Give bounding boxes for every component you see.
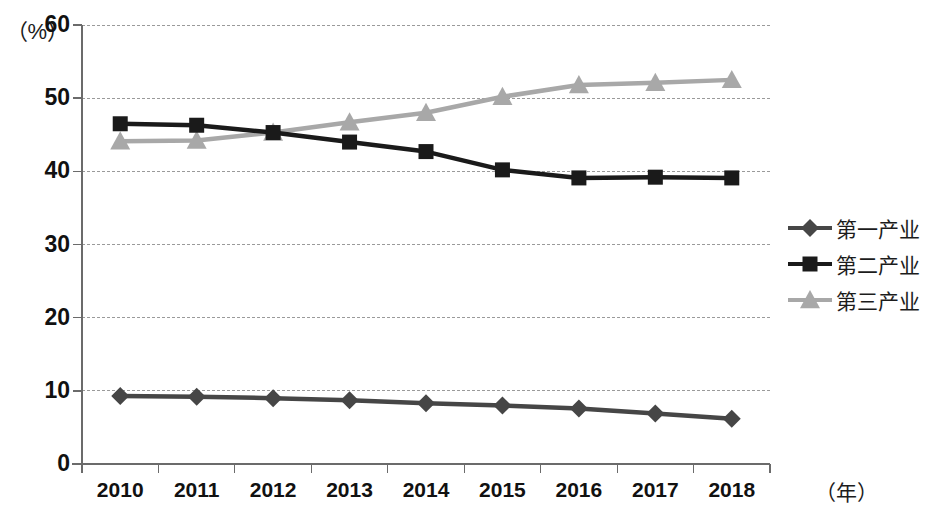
x-axis-tick-label: 2010 [97, 478, 144, 502]
y-axis-tick-label: 20 [10, 304, 70, 331]
legend-square-icon [788, 254, 832, 274]
data-point [570, 399, 588, 417]
legend-diamond-icon [788, 218, 832, 238]
data-point [189, 118, 204, 133]
legend-label: 第三产业 [836, 285, 920, 315]
data-point [646, 405, 664, 423]
y-axis-tick-label: 40 [10, 157, 70, 184]
x-axis-unit-label: （年） [815, 476, 878, 506]
series-1 [111, 387, 741, 428]
legend-item-3[interactable]: 第三产业 [788, 282, 920, 318]
data-point [724, 170, 739, 185]
y-axis-tick-label: 10 [10, 377, 70, 404]
legend-item-2[interactable]: 第二产业 [788, 246, 920, 282]
x-axis-tick-label: 2015 [479, 478, 526, 502]
data-point [266, 125, 281, 140]
x-axis-tick-label: 2018 [708, 478, 755, 502]
data-point [264, 389, 282, 407]
marker-square [803, 257, 818, 272]
data-point [571, 170, 586, 185]
data-point [341, 391, 359, 409]
data-point [113, 116, 128, 131]
legend-triangle-icon [788, 290, 832, 310]
data-point [723, 410, 741, 428]
data-point [417, 394, 435, 412]
data-point [495, 162, 510, 177]
data-point [648, 170, 663, 185]
chart-legend: 第一产业第二产业第三产业 [788, 210, 920, 318]
data-point [419, 144, 434, 159]
line-chart: （%） （年） 0102030405060 201020112012201320… [0, 0, 925, 508]
x-axis-tick-label: 2017 [632, 478, 679, 502]
plot-area [0, 0, 925, 508]
x-axis-tick-label: 2016 [556, 478, 603, 502]
legend-label: 第二产业 [836, 249, 920, 279]
series-3 [110, 70, 742, 150]
x-axis-tick-label: 2012 [250, 478, 297, 502]
legend-label: 第一产业 [836, 213, 920, 243]
x-axis-tick-label: 2013 [326, 478, 373, 502]
y-axis-tick-label: 50 [10, 84, 70, 111]
marker-triangle [800, 290, 820, 308]
data-point [493, 396, 511, 414]
data-point [111, 387, 129, 405]
y-axis-tick-label: 60 [10, 11, 70, 38]
y-axis-tick-label: 0 [10, 450, 70, 477]
x-axis-tick-label: 2014 [403, 478, 450, 502]
marker-diamond [801, 219, 819, 237]
legend-item-1[interactable]: 第一产业 [788, 210, 920, 246]
data-point [342, 135, 357, 150]
y-axis-tick-label: 30 [10, 231, 70, 258]
series-2 [113, 116, 740, 185]
x-axis-tick-label: 2011 [174, 478, 220, 502]
